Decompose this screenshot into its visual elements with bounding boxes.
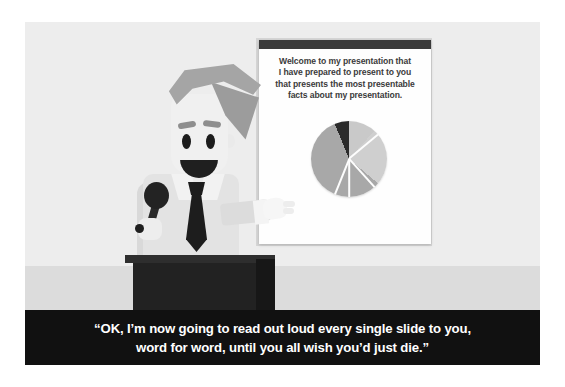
pie-separator-1 <box>348 159 350 197</box>
presenter-eye-left <box>182 134 191 149</box>
background-floor <box>25 266 540 310</box>
presenter-finger-1 <box>283 201 295 207</box>
caption-line-2: word for word, until you all wish you’d … <box>48 338 518 357</box>
podium-ledge <box>125 255 275 263</box>
presenter-upper-lip <box>180 156 218 160</box>
slide-body-text: Welcome to my presentation that I have p… <box>265 56 425 102</box>
caption-text: “OK, I’m now going to read out loud ever… <box>48 319 518 357</box>
pie-chart <box>311 121 387 197</box>
illustration-scene: Welcome to my presentation that I have p… <box>25 22 540 365</box>
microphone-icon <box>144 182 169 209</box>
slide-text-line-2: I have prepared to present to you <box>265 67 425 78</box>
presenter-eye-right <box>206 134 215 149</box>
caption-band: “OK, I’m now going to read out loud ever… <box>25 310 540 365</box>
screen-top-frame <box>259 40 431 49</box>
presenter-left-thumb <box>135 224 144 233</box>
slide-text-line-4: facts about my presentation. <box>265 90 425 101</box>
presenter-finger-2 <box>283 208 294 214</box>
slide-text-line-1: Welcome to my presentation that <box>265 56 425 67</box>
caption-line-1: “OK, I’m now going to read out loud ever… <box>48 319 518 338</box>
slide-text-line-3: that presents the most presentable <box>265 79 425 90</box>
